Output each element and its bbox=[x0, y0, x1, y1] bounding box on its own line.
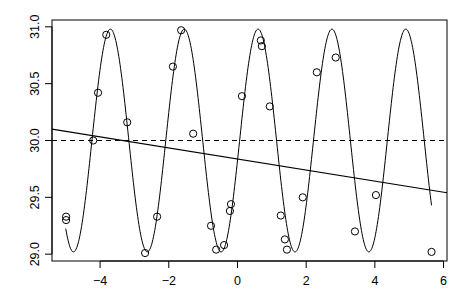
x-tick-label: −2 bbox=[162, 274, 176, 288]
data-point bbox=[281, 236, 288, 243]
y-tick-label: 29.5 bbox=[28, 185, 42, 209]
x-tick-label: −4 bbox=[93, 274, 107, 288]
y-tick-label: 30.5 bbox=[28, 71, 42, 95]
y-axis: 29.029.530.030.531.0 bbox=[28, 15, 52, 267]
data-point bbox=[226, 207, 233, 214]
x-tick-label: 0 bbox=[234, 274, 241, 288]
data-point bbox=[207, 222, 214, 229]
data-point bbox=[299, 194, 306, 201]
data-point bbox=[227, 201, 234, 208]
data-point bbox=[351, 228, 358, 235]
data-point bbox=[94, 89, 101, 96]
plot-area bbox=[52, 27, 447, 257]
x-tick-label: 2 bbox=[303, 274, 310, 288]
x-tick-label: 4 bbox=[371, 274, 378, 288]
data-point bbox=[372, 191, 379, 198]
data-point bbox=[313, 69, 320, 76]
x-axis: −4−20246 bbox=[93, 261, 447, 288]
data-point bbox=[283, 246, 290, 253]
chart: −4−20246 29.029.530.030.531.0 bbox=[0, 0, 466, 308]
x-tick-label: 6 bbox=[440, 274, 447, 288]
y-tick-label: 30.0 bbox=[28, 128, 42, 152]
data-point bbox=[428, 248, 435, 255]
data-point bbox=[266, 103, 273, 110]
data-point bbox=[190, 130, 197, 137]
y-tick-label: 29.0 bbox=[28, 242, 42, 266]
y-tick-label: 31.0 bbox=[28, 15, 42, 39]
data-point bbox=[277, 212, 284, 219]
data-point bbox=[169, 63, 176, 70]
data-point bbox=[332, 54, 339, 61]
